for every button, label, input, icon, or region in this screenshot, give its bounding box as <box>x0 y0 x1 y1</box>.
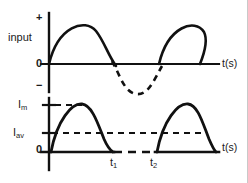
top-axis-y-label: input <box>8 32 32 43</box>
top-axis-plus-label: + <box>36 12 42 23</box>
input-negative-lobe-1 <box>112 61 162 94</box>
input-positive-lobe-2 <box>159 26 206 64</box>
t1-tick-label: t1 <box>110 157 117 168</box>
output-pulse-1 <box>51 104 113 152</box>
top-axis-minus-label: − <box>36 80 42 91</box>
t2-tick-label: t2 <box>150 157 157 168</box>
waveform-svg <box>0 0 248 183</box>
t1-subscript: 1 <box>113 161 117 170</box>
peak-current-label: Im <box>18 99 27 110</box>
bottom-axis-zero-label: 0 <box>36 144 42 155</box>
bottom-panel-group <box>41 98 219 170</box>
top-panel-group <box>41 13 219 94</box>
input-positive-lobe-1 <box>49 25 116 66</box>
output-pulse-2 <box>157 104 216 152</box>
waveform-figure: + input 0 − t(s) Im Iav 0 t1 t2 t(s) <box>0 0 248 183</box>
top-axis-zero-label: 0 <box>36 58 42 69</box>
average-current-subscript: av <box>16 131 24 140</box>
top-axis-x-label: t(s) <box>222 58 237 69</box>
t2-subscript: 2 <box>153 161 157 170</box>
peak-current-subscript: m <box>21 103 27 112</box>
bottom-axis-x-label: t(s) <box>222 142 237 153</box>
average-current-label: Iav <box>13 127 24 138</box>
